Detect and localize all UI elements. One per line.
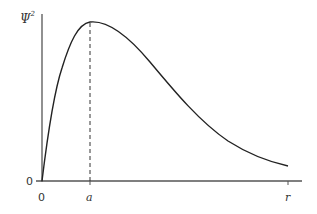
chart-canvas bbox=[0, 0, 317, 214]
x-peak-label: a bbox=[86, 192, 93, 203]
y-axis-label: Ψ2 bbox=[20, 13, 35, 25]
x-zero-label: 0 bbox=[38, 192, 45, 203]
x-end-label: r bbox=[285, 192, 290, 203]
y-zero-label: 0 bbox=[26, 176, 33, 187]
probability-curve bbox=[42, 22, 288, 181]
